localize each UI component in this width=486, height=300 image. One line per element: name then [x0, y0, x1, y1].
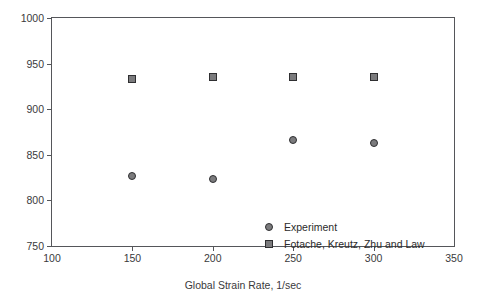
data-point-circle: [128, 172, 136, 180]
y-axis-tick: [47, 18, 52, 19]
x-axis-tick: [132, 246, 133, 251]
plot-area: 7508008509009501000100150200250300350: [51, 17, 455, 247]
x-axis-tick-label: 250: [284, 253, 302, 264]
x-axis-tick-label: 350: [445, 253, 463, 264]
x-axis-tick-label: 100: [43, 253, 61, 264]
y-axis-tick-label: 750: [26, 241, 44, 252]
data-point-square: [289, 73, 297, 81]
data-point-square: [370, 73, 378, 81]
y-axis-tick: [47, 155, 52, 156]
y-axis-tick: [47, 109, 52, 110]
x-axis-tick: [213, 246, 214, 251]
y-axis-tick-label: 900: [26, 104, 44, 115]
y-axis-tick-label: 850: [26, 150, 44, 161]
x-axis-title-label: Global Strain Rate, 1/sec: [185, 279, 302, 291]
legend-label: Fotache, Kreutz, Zhu and Law: [284, 238, 425, 250]
scatter-chart-figure: Ignition Temperature, K 7508008509009501…: [0, 0, 486, 300]
y-axis-tick-label: 950: [26, 58, 44, 69]
data-point-circle: [370, 139, 378, 147]
legend-label: Experiment: [284, 221, 337, 233]
legend-marker-circle-icon: [262, 223, 276, 231]
data-point-circle: [289, 136, 297, 144]
data-point-square: [128, 75, 136, 83]
data-point-circle: [209, 175, 217, 183]
x-axis-tick-label: 200: [204, 253, 222, 264]
data-point-square: [209, 73, 217, 81]
y-axis-tick: [47, 64, 52, 65]
legend-item: Experiment: [262, 218, 425, 235]
x-axis-tick-label: 150: [124, 253, 142, 264]
y-axis-tick: [47, 246, 52, 247]
y-axis-tick: [47, 200, 52, 201]
y-axis-tick-label: 800: [26, 195, 44, 206]
x-axis-tick-label: 300: [365, 253, 383, 264]
legend-marker-square-icon: [262, 240, 276, 248]
y-axis-tick-label: 1000: [21, 13, 44, 24]
chart-legend: ExperimentFotache, Kreutz, Zhu and Law: [262, 218, 425, 252]
legend-item: Fotache, Kreutz, Zhu and Law: [262, 235, 425, 252]
x-axis-title: Global Strain Rate, 1/sec: [0, 279, 486, 291]
